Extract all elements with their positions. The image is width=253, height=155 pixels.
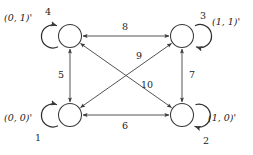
self-loop-label-bottom-left: 1 bbox=[35, 133, 41, 143]
state-label-bottom-left: (0, 0)' bbox=[4, 113, 32, 123]
self-loop-bottom-left bbox=[41, 104, 57, 127]
edge-label-diagonal-up: 9 bbox=[136, 51, 142, 61]
node-bottom-left[interactable] bbox=[59, 104, 82, 127]
self-loop-top-right bbox=[196, 25, 212, 48]
edge-label-bottom: 6 bbox=[122, 121, 128, 131]
edge-label-diagonal-down: 10 bbox=[141, 80, 153, 90]
edge-label-right: 7 bbox=[189, 70, 195, 80]
node-top-right[interactable] bbox=[171, 25, 194, 48]
state-label-bottom-right: (1, 0)' bbox=[208, 113, 236, 123]
self-loop-label-top-left: 4 bbox=[45, 7, 51, 17]
state-label-top-right: (1, 1)' bbox=[212, 17, 240, 27]
node-bottom-right[interactable] bbox=[171, 104, 194, 127]
edge-label-top: 8 bbox=[122, 22, 128, 32]
self-loop-top-left bbox=[41, 25, 57, 48]
self-loop-label-top-right: 3 bbox=[200, 11, 206, 21]
node-top-left[interactable] bbox=[59, 25, 82, 48]
state-label-top-left: (0, 1)' bbox=[4, 13, 32, 23]
self-loop-label-bottom-right: 2 bbox=[203, 136, 209, 146]
state-transition-diagram: (0, 1)' (1, 1)' (0, 0)' (1, 0)' 4 3 1 2 … bbox=[0, 0, 253, 155]
edge-label-left: 5 bbox=[58, 70, 64, 80]
